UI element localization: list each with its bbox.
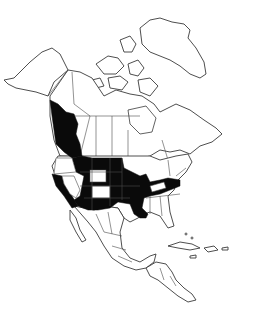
caribbean-islands [168,233,228,258]
greenland [140,18,206,78]
range-map [0,0,256,326]
central-america [146,262,196,302]
